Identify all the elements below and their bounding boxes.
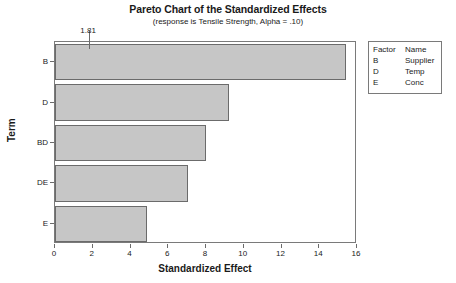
y-axis-title: Term xyxy=(6,118,17,142)
x-tick-mark-2 xyxy=(92,244,93,248)
x-tick-label-16: 16 xyxy=(352,249,361,258)
bar-b xyxy=(55,44,346,80)
legend-table: Factor Name BSupplierDTempEConc xyxy=(373,45,434,89)
bar-e xyxy=(55,206,147,242)
x-axis-title: Standardized Effect xyxy=(54,263,356,274)
plot-area xyxy=(54,41,356,243)
x-tick-label-8: 8 xyxy=(203,249,207,258)
legend-factor: E xyxy=(373,78,405,89)
y-tick-mark-e xyxy=(50,223,54,224)
reference-line-label: 1.81 xyxy=(80,26,96,35)
y-tick-label-b: B xyxy=(20,57,48,66)
pareto-chart: Pareto Chart of the Standardized Effects… xyxy=(0,0,456,283)
bar-d xyxy=(55,84,229,120)
y-tick-label-bd: BD xyxy=(20,138,48,147)
y-tick-mark-b xyxy=(50,61,54,62)
legend-row: BSupplier xyxy=(373,56,434,67)
y-tick-mark-de xyxy=(50,182,54,183)
plot-inner xyxy=(55,42,355,242)
y-tick-mark-bd xyxy=(50,142,54,143)
x-tick-label-6: 6 xyxy=(165,249,169,258)
legend-header-row: Factor Name xyxy=(373,45,434,56)
y-tick-label-de: DE xyxy=(20,178,48,187)
legend-row: EConc xyxy=(373,78,434,89)
legend-header-factor: Factor xyxy=(373,45,405,56)
y-tick-label-e: E xyxy=(20,218,48,227)
legend-factor: D xyxy=(373,67,405,78)
bar-bd xyxy=(55,125,206,161)
legend-name: Temp xyxy=(405,67,434,78)
x-tick-mark-14 xyxy=(318,244,319,248)
x-tick-label-10: 10 xyxy=(238,249,247,258)
chart-subtitle: (response is Tensile Strength, Alpha = .… xyxy=(0,17,456,26)
legend-body: BSupplierDTempEConc xyxy=(373,56,434,89)
legend-factor: B xyxy=(373,56,405,67)
chart-title: Pareto Chart of the Standardized Effects xyxy=(0,3,456,15)
x-tick-label-12: 12 xyxy=(276,249,285,258)
x-tick-label-2: 2 xyxy=(90,249,94,258)
legend-header-name: Name xyxy=(405,45,434,56)
x-tick-mark-8 xyxy=(205,244,206,248)
x-tick-label-4: 4 xyxy=(127,249,131,258)
x-tick-label-14: 14 xyxy=(314,249,323,258)
factor-legend: Factor Name BSupplierDTempEConc xyxy=(368,41,442,94)
x-tick-mark-12 xyxy=(281,244,282,248)
x-tick-mark-0 xyxy=(54,244,55,248)
legend-name: Conc xyxy=(405,78,434,89)
legend-name: Supplier xyxy=(405,56,434,67)
x-tick-mark-4 xyxy=(130,244,131,248)
x-tick-mark-6 xyxy=(167,244,168,248)
x-tick-mark-10 xyxy=(243,244,244,248)
legend-row: DTemp xyxy=(373,67,434,78)
bar-de xyxy=(55,165,188,201)
x-tick-mark-16 xyxy=(356,244,357,248)
y-tick-label-d: D xyxy=(20,97,48,106)
y-tick-mark-d xyxy=(50,102,54,103)
x-tick-label-0: 0 xyxy=(52,249,56,258)
